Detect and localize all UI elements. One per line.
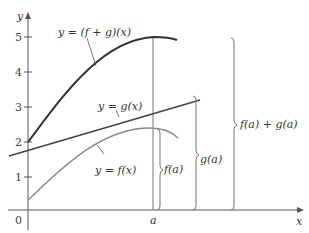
x-tick-a: a [150, 214, 157, 227]
y-tick-2: 2 [15, 136, 22, 149]
y-axis-label: y [16, 10, 24, 23]
fa-label: f(a) [163, 163, 183, 176]
y-tick-1: 1 [15, 171, 22, 184]
y-tick-3: 3 [15, 101, 22, 114]
ga-label: g(a) [200, 153, 222, 166]
g-line-label: y = g(x) [97, 100, 142, 113]
origin-label: 0 [15, 214, 22, 227]
sum-curve-label: y = (f + g)(x) [57, 26, 131, 39]
fga-label: f(a) + g(a) [239, 118, 298, 131]
function-sum-diagram: y x 0 1 2 3 4 5 a y = (f + g)(x) y = g(x… [0, 0, 309, 233]
f-curve-label: y = f(x) [94, 164, 136, 177]
labels-layer: y x 0 1 2 3 4 5 a y = (f + g)(x) y = g(x… [0, 0, 309, 233]
y-tick-4: 4 [15, 66, 22, 79]
y-tick-5: 5 [15, 31, 22, 44]
x-axis-label: x [296, 215, 303, 228]
